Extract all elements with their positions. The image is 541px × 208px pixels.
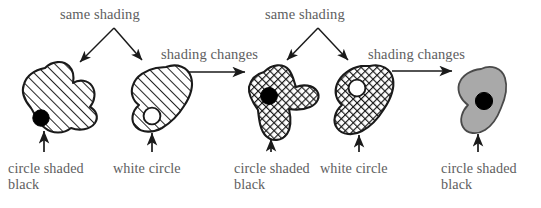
- shape-4-outline: [335, 65, 394, 134]
- shape-1-caption: circle shaded black: [8, 160, 84, 193]
- shape-5-group: [458, 67, 506, 133]
- same-shading-1-arrow-left: [80, 28, 114, 62]
- shape-3-caption: circle shaded black: [234, 160, 310, 193]
- shading-sequence-diagram: same shading same shading shading change…: [0, 0, 541, 208]
- shape-4-group: [335, 65, 394, 134]
- same-shading-1-arrow-right: [114, 28, 142, 60]
- shape-3-group: [249, 65, 319, 140]
- same-shading-2-arrow-left: [287, 28, 318, 60]
- shape-3-outline: [249, 65, 319, 140]
- same-shading-label-2: same shading: [265, 6, 345, 23]
- shading-changes-label-2: shading changes: [368, 46, 465, 63]
- shape-2-group: [132, 65, 192, 131]
- shape-1-black-circle: [33, 110, 49, 126]
- shape-1-group: [23, 62, 97, 132]
- shape-5-caption: circle shaded black: [441, 160, 517, 193]
- shape-5-black-circle: [475, 92, 492, 109]
- shape-2-outline: [132, 65, 192, 131]
- shape-3-black-circle: [261, 88, 278, 105]
- shape-4-white-circle: [349, 80, 366, 97]
- shading-changes-label-1: shading changes: [161, 46, 258, 63]
- same-shading-2-arrow-right: [318, 28, 348, 60]
- shape-2-caption: white circle: [113, 160, 181, 176]
- same-shading-label-1: same shading: [60, 6, 140, 23]
- same-shading-1-arrows: [80, 28, 142, 62]
- shape-2-white-circle: [144, 108, 161, 125]
- same-shading-2-arrows: [287, 28, 348, 60]
- shape-4-caption: white circle: [320, 160, 388, 176]
